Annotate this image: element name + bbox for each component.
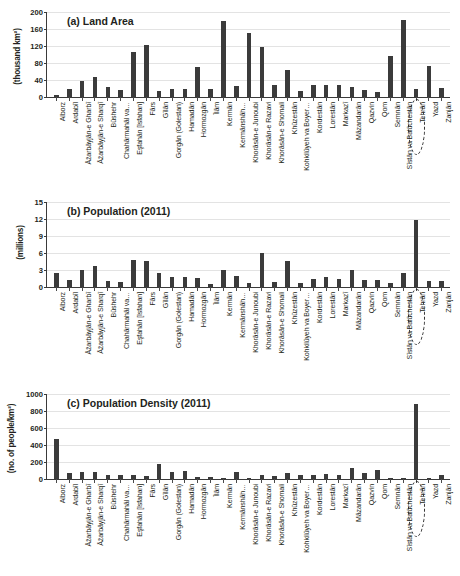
bar-cell [397, 202, 410, 287]
bar [195, 67, 200, 97]
x-label-cell: Sīstān va Balūchestān [397, 482, 410, 570]
bar-cell [217, 12, 230, 97]
x-label-cell: Hormozgān [191, 482, 204, 570]
y-tick-label: 120 [30, 42, 47, 51]
bar-cell [140, 394, 153, 479]
x-label-cell: Qom [371, 100, 384, 188]
bar-cell [89, 394, 102, 479]
bar-cell [371, 394, 384, 479]
x-label-cell: Khūzestān [281, 482, 294, 570]
bar [401, 273, 406, 287]
bar [362, 90, 367, 97]
bar [54, 273, 59, 287]
x-label-cell: Gorgān (Golestan) [165, 482, 178, 570]
bar [183, 277, 188, 287]
y-tick-label: 200 [30, 458, 47, 467]
x-label-cell: Ardabīl [62, 100, 75, 188]
bar-cell [384, 394, 397, 479]
bar [414, 220, 419, 287]
x-tick-label: Zanjān [445, 102, 453, 123]
bar-cell [63, 394, 76, 479]
x-label-cell: Hamadān [178, 482, 191, 570]
bar [93, 266, 98, 287]
bar [350, 468, 355, 479]
bar-cell [345, 12, 358, 97]
bar [388, 56, 393, 97]
x-label-cell: Kohkilūyeh va Boyer… [294, 482, 307, 570]
x-label-cell: Īlām [204, 482, 217, 570]
x-label-cell: Lorestān [319, 482, 332, 570]
x-label-cell: Kordestān [307, 100, 320, 188]
y-tick-label: 400 [30, 441, 47, 450]
x-label-cell: Hormozgān [191, 290, 204, 378]
bar-cell [410, 12, 423, 97]
y-axis-title-b: (millions) [16, 195, 25, 291]
bar-cell [114, 394, 127, 479]
bar-cell [320, 394, 333, 479]
x-label-cell: Alborz [49, 482, 62, 570]
bar [118, 90, 123, 97]
chart-panel-land-area: (thousand km²) (a) Land Area 04080120160… [0, 0, 460, 192]
bar-cell [281, 394, 294, 479]
bar-cell [127, 202, 140, 287]
bar [195, 278, 200, 287]
bar [439, 88, 444, 97]
x-label-cell: Kermān [216, 482, 229, 570]
x-label-cell: Semnān [384, 100, 397, 188]
x-label-cell: Fārs [139, 482, 152, 570]
bar-cell [268, 12, 281, 97]
x-label-cell: Āz̄arbāyjān-e Gharbī [75, 482, 88, 570]
x-axis-labels-b: AlborzArdabīlĀz̄arbāyjān-e GharbīĀz̄arbā… [46, 290, 450, 378]
bar-cell [397, 12, 410, 97]
x-label-cell: Semnān [384, 290, 397, 378]
x-label-cell: Qom [371, 290, 384, 378]
y-tick-label: 40 [35, 76, 47, 85]
bar [285, 261, 290, 287]
bar-cell [217, 394, 230, 479]
x-label-cell: Kermān [216, 290, 229, 378]
bar [375, 470, 380, 479]
bar [427, 66, 432, 97]
bar-cell [101, 202, 114, 287]
bar-cell [63, 12, 76, 97]
bar [221, 270, 226, 287]
plot-area-c: (c) Population Density (2011) 0200400600… [46, 394, 450, 480]
bar-cell [204, 12, 217, 97]
x-label-cell: Āz̄arbāyjān-e Sharqī [88, 100, 101, 188]
bar-cell [114, 202, 127, 287]
bar-cell [114, 12, 127, 97]
bar [144, 261, 149, 287]
bar [54, 439, 59, 479]
bar-series-c [47, 394, 450, 479]
x-label-cell: Kermānshāh… [229, 482, 242, 570]
bar [183, 471, 188, 479]
y-tick-label: 12 [35, 215, 47, 224]
bar-cell [50, 394, 63, 479]
bar [93, 77, 98, 97]
bar-series-a [47, 12, 450, 97]
bar-cell [333, 202, 346, 287]
bar-cell [422, 12, 435, 97]
bar-cell [191, 394, 204, 479]
y-tick-label: 80 [35, 59, 47, 68]
bar-cell [153, 202, 166, 287]
bar-cell [101, 12, 114, 97]
x-label-cell: Yazd [422, 482, 435, 570]
x-label-cell: Qom [371, 482, 384, 570]
x-label-cell: Tehrān [410, 290, 423, 378]
x-axis-labels-a: AlborzArdabīlĀz̄arbāyjān-e GharbīĀz̄arbā… [46, 100, 450, 188]
bar-cell [435, 394, 448, 479]
bar [131, 52, 136, 97]
bar-cell [345, 202, 358, 287]
x-label-cell: Būshehr [101, 100, 114, 188]
x-label-cell: Semnān [384, 482, 397, 570]
bar [311, 85, 316, 97]
y-tick-label: 800 [30, 407, 47, 416]
bar-cell [371, 12, 384, 97]
bar-cell [358, 12, 371, 97]
x-label-cell: Gorgān (Golestan) [165, 100, 178, 188]
bar [80, 81, 85, 97]
bar-cell [166, 202, 179, 287]
x-label-cell: Sīstān va Balūchestān [397, 100, 410, 188]
x-label-cell: Eşfahān [Isfahan] [126, 482, 139, 570]
